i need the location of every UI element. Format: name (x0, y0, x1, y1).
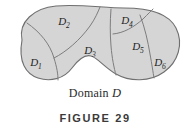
domain-diagram: D1 D2 D3 D4 D5 D6 (0, 0, 190, 92)
figure-number-label: FIGURE 29 (0, 112, 190, 124)
domain-caption-symbol: D (112, 86, 121, 100)
figure-container: D1 D2 D3 D4 D5 D6 Domain D FIGURE 29 (0, 0, 190, 135)
domain-outline (21, 5, 180, 79)
domain-caption: Domain D (0, 86, 190, 101)
domain-caption-text: Domain (69, 86, 109, 100)
